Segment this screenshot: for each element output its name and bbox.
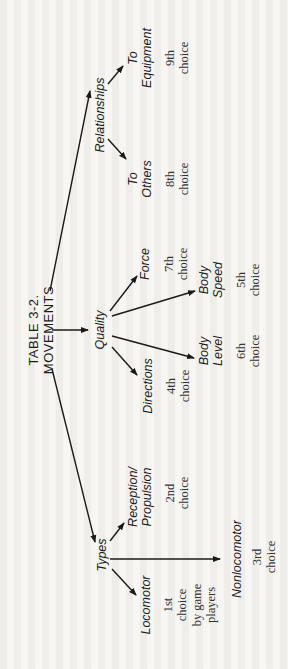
choice-directions: 4th choice <box>164 370 193 403</box>
node-to-others: To Others <box>126 160 155 198</box>
node-quality: Quality <box>93 311 107 350</box>
title-line-1: TABLE 3-2. <box>27 286 42 374</box>
node-force: Force <box>138 248 152 280</box>
node-to-equipment: To Equipment <box>126 28 155 88</box>
node-body-speed: Body Speed <box>197 262 226 298</box>
choice-body-level: 6th choice <box>234 335 263 368</box>
node-nonlocomotor: Nonlocomotor <box>230 520 244 598</box>
arrow-relationships-to-equipment <box>108 66 123 84</box>
title-line-2: MOVEMENTS <box>42 286 57 374</box>
diagram-title: TABLE 3-2. MOVEMENTS <box>27 286 57 374</box>
arrow-title-to-types <box>52 369 95 542</box>
node-body-level: Body Level <box>197 336 226 366</box>
arrow-quality-to-directions <box>112 347 137 375</box>
arrow-types-to-reception <box>110 523 124 541</box>
node-locomotor: Locomotor <box>139 575 153 634</box>
choice-locomotor: 1st choice by game players <box>161 584 219 627</box>
arrow-quality-to-body-level <box>112 336 194 358</box>
arrow-relationships-to-others <box>108 139 126 159</box>
choice-body-speed: 5th choice <box>234 264 263 297</box>
node-directions: Directions <box>141 358 155 414</box>
choice-nonlocomotor: 3rd choice <box>250 541 279 574</box>
node-types: Types <box>95 538 109 571</box>
node-relationships: Relationships <box>93 77 107 152</box>
arrow-quality-to-force <box>110 276 137 311</box>
choice-to-others: 8th choice <box>163 163 192 196</box>
arrow-title-to-relationships <box>50 91 90 291</box>
choice-reception-propulsion: 2nd choice <box>163 477 192 510</box>
choice-force: 7th choice <box>162 248 191 281</box>
arrow-quality-to-body-speed <box>112 291 195 316</box>
arrow-types-to-locomotor <box>112 569 136 595</box>
choice-to-equipment: 9th choice <box>163 42 192 75</box>
node-reception-propulsion: Reception/ Propulsion <box>126 467 155 527</box>
movements-diagram: TABLE 3-2. MOVEMENTS Types Quality Relat… <box>0 0 288 669</box>
